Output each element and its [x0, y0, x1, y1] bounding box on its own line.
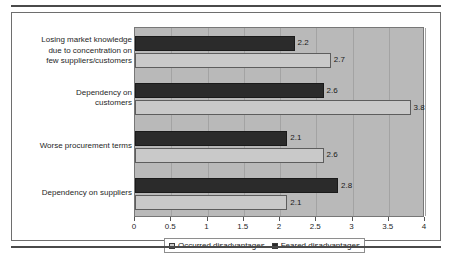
top-divider-rule	[11, 5, 441, 7]
axis-tick-mark	[352, 217, 353, 221]
axis-tick-mark	[315, 217, 316, 221]
axis-tick-mark	[134, 217, 135, 221]
bar-feared	[135, 36, 295, 51]
bar-feared	[135, 83, 324, 98]
bar-occurred	[135, 195, 287, 210]
bar-value-label: 2.7	[334, 56, 345, 64]
bar-occurred	[135, 148, 324, 163]
bar-occurred	[135, 53, 331, 68]
chart-figure: Losing market knowledge due to concentra…	[0, 0, 452, 257]
bar-value-label: 2.1	[290, 199, 301, 207]
axis-tick-mark	[207, 217, 208, 221]
axis-tick-label: 1	[204, 222, 208, 231]
bar-value-label: 3.8	[414, 104, 425, 112]
category-label: Dependency on suppliers	[16, 188, 132, 199]
axis-tick-label: 0.5	[165, 222, 176, 231]
axis-tick-label: 0	[132, 222, 136, 231]
axis-tick-label: 3	[349, 222, 353, 231]
plot-area: 2.22.72.63.82.12.62.82.1	[134, 27, 424, 217]
bar-value-label: 2.2	[298, 39, 309, 47]
value-axis: 00.511.522.533.54	[134, 217, 424, 237]
axis-tick-mark	[424, 217, 425, 221]
axis-tick-mark	[279, 217, 280, 221]
chart-frame: Losing market knowledge due to concentra…	[11, 12, 441, 241]
bar-feared	[135, 178, 338, 193]
axis-tick-label: 2.5	[310, 222, 321, 231]
category-label: Losing market knowledge due to concentra…	[16, 35, 132, 67]
axis-tick-label: 1.5	[237, 222, 248, 231]
bar-value-label: 2.8	[341, 182, 352, 190]
bottom-divider-rule	[11, 246, 441, 248]
bar-value-label: 2.1	[290, 134, 301, 142]
axis-tick-mark	[243, 217, 244, 221]
bar-occurred	[135, 100, 411, 115]
axis-tick-mark	[388, 217, 389, 221]
gridline	[425, 28, 426, 216]
gridline	[353, 28, 354, 216]
axis-tick-label: 4	[422, 222, 426, 231]
bar-feared	[135, 131, 287, 146]
bar-value-label: 2.6	[327, 151, 338, 159]
category-label: Worse procurement terms	[16, 141, 132, 152]
gridline	[389, 28, 390, 216]
axis-tick-label: 2	[277, 222, 281, 231]
bar-value-label: 2.6	[327, 87, 338, 95]
axis-tick-label: 3.5	[382, 222, 393, 231]
category-axis-labels: Losing market knowledge due to concentra…	[14, 27, 132, 217]
category-label: Dependency on customers	[16, 88, 132, 109]
axis-tick-mark	[170, 217, 171, 221]
